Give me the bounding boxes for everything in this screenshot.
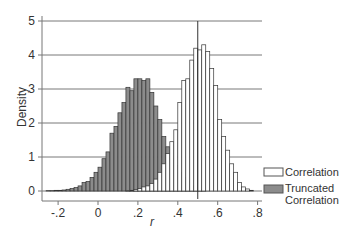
histogram-bar [98, 167, 102, 191]
histogram-bar [170, 142, 174, 191]
y-tick-label: 4 [28, 48, 35, 62]
legend-swatch-white [264, 168, 283, 176]
x-axis-title: r [150, 215, 155, 229]
histogram-bar [94, 172, 98, 191]
histogram-bar [210, 69, 214, 191]
legend-label-truncated-line2: Correlation [285, 194, 339, 206]
histogram-bar [158, 172, 162, 191]
histogram-bar [58, 190, 62, 191]
x-tick-label: .4 [173, 206, 183, 220]
histogram-bar [126, 87, 130, 191]
histogram-bar [90, 177, 94, 191]
histogram-bar [166, 154, 170, 191]
histogram-bar [190, 60, 194, 191]
histogram-bar [138, 79, 142, 191]
legend-label-correlation: Correlation [285, 166, 339, 178]
histogram-bar [162, 164, 166, 191]
histogram-bar [174, 130, 178, 191]
y-axis-title: Density [15, 87, 29, 127]
histogram-bar [106, 152, 110, 191]
histogram-bar [206, 52, 210, 191]
histogram-bar [222, 137, 226, 191]
x-tick-label: 0 [95, 206, 102, 220]
histogram-bar [134, 79, 138, 191]
histogram-bar [142, 187, 146, 191]
y-tick-label: 3 [28, 82, 35, 96]
histogram-bar [86, 181, 90, 191]
histogram-bar [62, 190, 66, 191]
histogram-bar [154, 106, 158, 191]
x-tick-label: .6 [213, 206, 223, 220]
histogram-bar [130, 190, 134, 191]
histogram-bar [218, 120, 222, 191]
histogram-bar [78, 186, 82, 191]
legend-item-truncated: Truncated Correlation [264, 182, 339, 206]
histogram-bar [238, 183, 242, 192]
histogram-bar [230, 164, 234, 191]
histogram-bar [74, 188, 78, 191]
histogram-bar [226, 150, 230, 191]
histogram-bar [130, 91, 134, 191]
legend-item-correlation: Correlation [264, 166, 339, 178]
histogram-bar [118, 113, 122, 191]
histogram-bar [142, 81, 146, 192]
y-tick-label: 5 [28, 14, 35, 28]
histogram-bar [138, 189, 142, 191]
histogram-bar [70, 189, 74, 191]
histogram-bar [150, 184, 154, 191]
histogram-bar [242, 187, 246, 191]
histogram-bar [182, 81, 186, 192]
y-tick-label: 1 [28, 150, 35, 164]
x-tick-label: .8 [253, 206, 263, 220]
histogram-bar [82, 183, 86, 192]
y-tick-label: 2 [28, 116, 35, 130]
legend: Correlation Truncated Correlation [264, 166, 339, 206]
histogram-bar [234, 172, 238, 191]
x-tick-label: .2 [133, 206, 143, 220]
histogram-bar [178, 103, 182, 191]
histogram-bar [122, 103, 126, 191]
histogram-bar [66, 189, 70, 191]
histogram-bar [150, 92, 154, 191]
legend-swatch-gray [264, 185, 283, 193]
histogram-bar [102, 159, 106, 191]
x-tick-label: -.2 [51, 206, 65, 220]
y-axis-ticks: 012345 [28, 14, 42, 198]
histogram-bar [198, 50, 202, 191]
histogram-bar [202, 45, 206, 191]
histogram-bar [186, 79, 190, 191]
histogram-bar [194, 48, 198, 191]
histogram-bar [154, 179, 158, 191]
histogram-bar [134, 190, 138, 191]
histogram-bar [246, 189, 250, 191]
legend-label-truncated-line1: Truncated [285, 182, 334, 194]
histogram-chart: -.20.2.4.6.8 012345 r Density Correlatio… [0, 0, 346, 236]
histogram-bar [214, 86, 218, 191]
histogram-bar [114, 126, 118, 191]
histogram-bar [250, 190, 254, 191]
histogram-bar [54, 190, 58, 191]
histogram-bar [146, 186, 150, 191]
histogram-bar [110, 133, 114, 191]
histogram-bar [146, 79, 150, 191]
x-axis-ticks: -.20.2.4.6.8 [51, 201, 263, 220]
y-tick-label: 0 [28, 184, 35, 198]
